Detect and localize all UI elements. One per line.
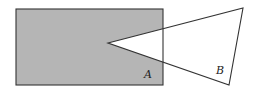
overlap-diagram: A B xyxy=(0,0,253,95)
label-b: B xyxy=(215,64,224,77)
label-a: A xyxy=(143,68,152,81)
